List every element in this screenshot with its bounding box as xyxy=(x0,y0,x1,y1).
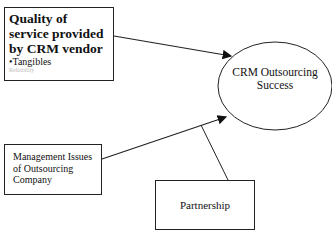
arrow-quality-to-success xyxy=(114,36,231,56)
line-partnership-to-edge xyxy=(201,125,228,180)
management-issues-box: Management Issues of Outsourcing Company xyxy=(4,144,102,195)
quality-box-bullet: •Tangibles xyxy=(9,56,109,67)
quality-box-faded-line: Reliability xyxy=(9,67,109,74)
outcome-ellipse-label: CRM Outsourcing Success xyxy=(225,66,325,92)
quality-of-service-box: Quality of service provided by CRM vendo… xyxy=(4,7,114,81)
partnership-box-label: Partnership xyxy=(180,199,230,211)
partnership-box: Partnership xyxy=(155,180,255,230)
management-box-label: Management Issues of Outsourcing Company xyxy=(13,151,92,185)
quality-box-title: Quality of service provided by CRM vendo… xyxy=(9,11,109,56)
